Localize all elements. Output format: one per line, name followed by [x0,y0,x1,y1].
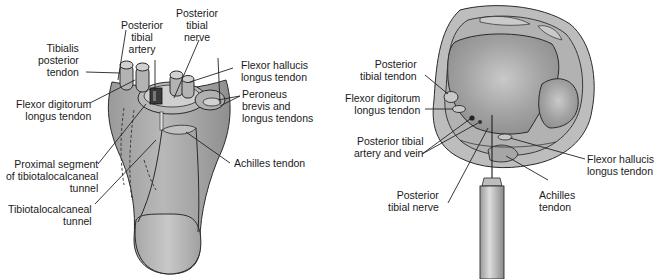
label-posterior-tibial-nerve-right: Posterior tibial nerve [388,189,439,213]
label-flexor-hallucis-longus-tendon-right: Flexor hallucis longus tendon [587,153,654,177]
label-achilles-tendon: Achilles tendon [234,157,305,169]
label-posterior-tibial-tendon: Posterior tibial tendon [360,58,417,82]
label-tibialis-posterior-tendon: Tibialis posterior tendon [38,42,79,78]
label-posterior-tibial-nerve: Posterior tibial nerve [176,7,218,43]
ankle-cross-section-illustration: Posterior tibial tendon Flexor digitorum… [330,0,667,279]
label-flexor-hallucis-longus-tendon: Flexor hallucis longus tendon [241,59,308,83]
label-flexor-digitorum-longus-tendon: Flexor digitorum longus tendon [16,98,91,122]
label-proximal-segment-tunnel: Proximal segment of tibiotalocalcaneal t… [6,158,98,194]
label-flexor-digitorum-longus-tendon-right: Flexor digitorum longus tendon [345,92,420,116]
label-tibiotalocalcaneal-tunnel: Tibiotalocalcaneal tunnel [8,203,92,227]
label-posterior-tibial-artery-vein: Posterior tibial artery and vein [354,135,423,159]
label-posterior-tibial-artery: Posterior tibial artery [121,19,163,55]
label-achilles-tendon-right: Achilles tendon [539,189,575,213]
label-peroneus-tendons: Peroneus brevis and longus tendons [242,88,313,124]
